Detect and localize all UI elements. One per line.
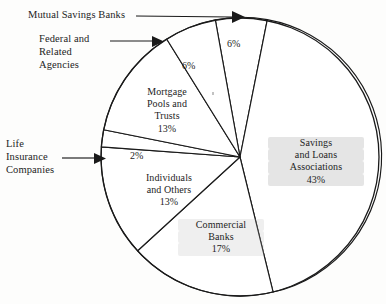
callout-life-insurance-line-2: Insurance (6, 151, 54, 164)
mortgage-pools-pct: 13% (132, 123, 202, 135)
mortgage-pools-line-3: Trusts (132, 110, 202, 122)
callout-mutual-savings-banks-text: Mutual Savings Banks (28, 9, 125, 22)
pie-chart-figure: Mutual Savings Banks Federal and Related… (0, 0, 386, 304)
individuals-others-line-2: and Others (128, 184, 210, 196)
callout-federal-related-agencies: Federal and Related Agencies (39, 33, 89, 71)
commercial-banks-line-1: Commercial (178, 219, 264, 231)
mortgage-pools-line-2: Pools and (132, 98, 202, 110)
individuals-others-pct: 13% (128, 196, 210, 208)
individuals-others-line-1: Individuals (128, 172, 210, 184)
mortgage-pools-line-1: Mortgage (132, 86, 202, 98)
slice-pct-mutual-savings-banks: 6% (227, 38, 241, 50)
slice-label-mortgage-pools-and-trusts: Mortgage Pools and Trusts 13% (132, 86, 202, 135)
callout-life-insurance-line-1: Life (6, 138, 54, 151)
slice-pct-federal-related-agencies: 6% (182, 60, 196, 72)
commercial-banks-pct: 17% (178, 243, 264, 255)
savings-loans-pct: 43% (268, 174, 364, 186)
callout-life-insurance-companies: Life Insurance Companies (6, 138, 54, 176)
callout-federal-line-1: Federal and (39, 33, 89, 46)
callout-life-insurance-line-3: Companies (6, 164, 54, 177)
slice-label-individuals-and-others: Individuals and Others 13% (128, 172, 210, 209)
scan-speck (212, 92, 214, 95)
callout-federal-line-2: Related (39, 46, 89, 59)
callout-federal-line-3: Agencies (39, 59, 89, 72)
callout-mutual-savings-banks: Mutual Savings Banks (28, 9, 125, 22)
savings-loans-line-2: and Loans (268, 149, 364, 161)
savings-loans-line-1: Savings (268, 137, 364, 149)
savings-loans-line-3: Associations (268, 161, 364, 173)
leader-line-mutual-savings-banks (136, 16, 232, 17)
commercial-banks-line-2: Banks (178, 231, 264, 243)
slice-label-savings-and-loans-associations: Savings and Loans Associations 43% (268, 137, 364, 186)
slice-label-commercial-banks: Commercial Banks 17% (178, 219, 264, 256)
slice-pct-life-insurance-companies: 2% (130, 150, 144, 162)
